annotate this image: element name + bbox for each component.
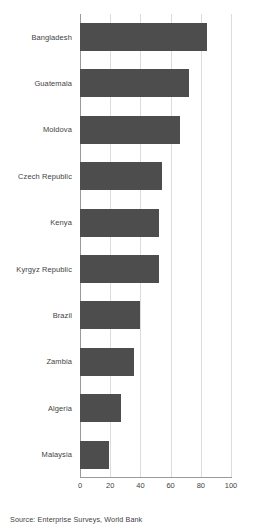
category-label-moldova: Moldova (0, 107, 76, 153)
bar-row (80, 153, 231, 199)
x-tick-label-20: 20 (106, 481, 114, 490)
x-axis-tick-labels: 020406080100 (80, 481, 231, 493)
category-label-kyrgyz-republic: Kyrgyz Republic (0, 246, 76, 292)
bar-row (80, 339, 231, 385)
gridline-100 (231, 14, 232, 478)
x-tick-label-40: 40 (136, 481, 144, 490)
category-axis-labels: BangladeshGuatemalaMoldovaCzech Republic… (0, 14, 76, 478)
bar-kyrgyz-republic (80, 255, 159, 283)
bar-brazil (80, 301, 140, 329)
bar-chart-figure: BangladeshGuatemalaMoldovaCzech Republic… (0, 0, 263, 532)
bar-row (80, 432, 231, 478)
bar-malaysia (80, 441, 109, 469)
bar-zambia (80, 348, 134, 376)
category-label-kenya: Kenya (0, 200, 76, 246)
plot-area (80, 14, 231, 478)
bar-row (80, 107, 231, 153)
category-label-bangladesh: Bangladesh (0, 14, 76, 60)
x-tick-label-100: 100 (225, 481, 238, 490)
category-label-guatemala: Guatemala (0, 60, 76, 106)
category-label-czech-republic: Czech Republic (0, 153, 76, 199)
bar-algeria (80, 394, 121, 422)
bar-row (80, 292, 231, 338)
bar-kenya (80, 209, 159, 237)
x-tick-label-60: 60 (166, 481, 174, 490)
x-tick-label-80: 80 (197, 481, 205, 490)
source-note: Source: Enterprise Surveys, World Bank (10, 515, 142, 524)
category-label-brazil: Brazil (0, 292, 76, 338)
bar-moldova (80, 116, 180, 144)
bar-bangladesh (80, 23, 207, 51)
bar-czech-republic (80, 162, 162, 190)
bar-guatemala (80, 69, 189, 97)
bar-row (80, 14, 231, 60)
x-tick-label-0: 0 (78, 481, 82, 490)
category-label-malaysia: Malaysia (0, 432, 76, 478)
bar-row (80, 200, 231, 246)
category-label-zambia: Zambia (0, 339, 76, 385)
x-axis-baseline (80, 477, 232, 478)
bar-row (80, 60, 231, 106)
category-label-algeria: Algeria (0, 385, 76, 431)
bar-row (80, 246, 231, 292)
bar-row (80, 385, 231, 431)
